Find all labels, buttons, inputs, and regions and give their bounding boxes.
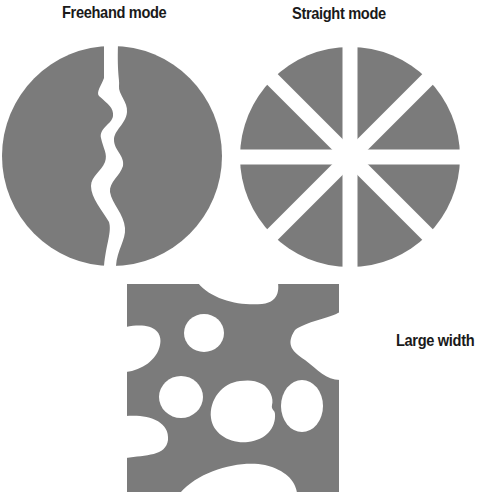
straight-circle — [233, 40, 467, 274]
large-width-square — [126, 283, 340, 493]
figures-canvas — [0, 0, 483, 493]
freehand-circle — [2, 44, 222, 266]
